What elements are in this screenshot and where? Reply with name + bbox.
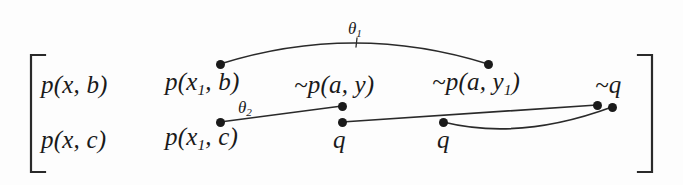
literal-top-row-0: p(x, b) [41,72,108,97]
link-q-to-nq-curve [443,107,612,129]
literal-top-row-3: ~p(a, y1) [432,69,520,97]
literal-top-row-1: p(x1, b) [165,69,239,97]
literal-top-row-4: ~q [595,72,621,97]
link-layer [220,38,612,129]
subst-index: 1 [356,27,362,39]
node-nq-right [608,103,617,112]
theta-2-label: θ2 [238,99,252,119]
literal-top-row-2: ~p(a, y) [294,72,374,97]
literal-tail: ) [512,68,521,95]
literal-base: q [333,126,346,153]
node-q-first [338,118,347,127]
literal-base: p(x [165,68,198,95]
theta-1-label: θ1 [348,20,362,40]
node-nq-left [593,101,602,110]
node-px1c [216,118,225,127]
literal-bottom-row-3: q [437,127,450,152]
node-pay [338,102,347,111]
proof-matrix-figure: p(x, b)p(x1, b)~p(a, y)~p(a, y1)~qp(x, c… [0,0,683,185]
node-q-second [439,118,448,127]
literal-subscript: 1 [504,81,512,98]
node-pay1 [484,60,493,69]
subst-index: 2 [246,106,252,118]
literal-tail: , c) [205,123,238,150]
right-square-bracket [638,55,652,172]
literal-bottom-row-1: p(x1, c) [165,124,238,152]
literal-base: ~q [595,71,621,98]
literal-bottom-row-0: p(x, c) [41,127,106,152]
literal-tail: , b) [205,68,239,95]
link-q-to-nq-line [342,105,597,122]
literal-base: p(x [165,123,198,150]
node-px1b [216,60,225,69]
literal-base: p(x, b) [41,71,108,98]
literal-base: ~p(a, y [432,68,504,95]
link-theta-1-arc [220,43,488,64]
literal-base: ~p(a, y) [294,71,374,98]
literal-bottom-row-2: q [333,127,346,152]
literal-base: q [437,126,450,153]
literal-base: p(x, c) [41,126,106,153]
